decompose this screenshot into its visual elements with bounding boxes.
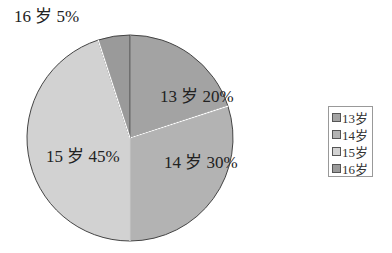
legend-item-14: 14岁 (332, 126, 372, 143)
pie-slices (27, 35, 233, 241)
legend-swatch (332, 164, 341, 173)
data-label: 13 岁 20% (160, 87, 234, 106)
data-label: 15 岁 45% (46, 147, 120, 166)
legend-item-13: 13岁 (332, 109, 372, 126)
legend-swatch (332, 113, 341, 122)
data-label: 14 岁 30% (164, 153, 238, 172)
legend-swatch (332, 147, 341, 156)
legend-item-15: 15岁 (332, 143, 372, 160)
legend-item-16: 16岁 (332, 160, 372, 177)
legend: 13岁 14岁 15岁 16岁 (328, 106, 373, 177)
data-label: 16 岁 5% (14, 7, 79, 26)
legend-swatch (332, 130, 341, 139)
